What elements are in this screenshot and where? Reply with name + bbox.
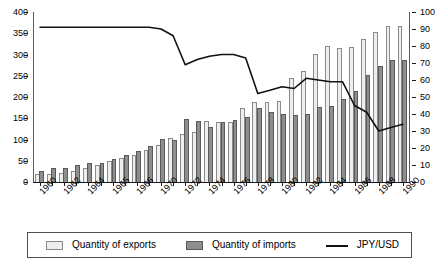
y-axis-right-tick [412,97,416,98]
y-axis-right-tick-label: 10 [420,161,430,170]
y-axis-right: 0102030405060708090100 [412,12,442,182]
legend-item-imports: Quantity of imports [186,240,296,250]
y-axis-right-tick-label: 80 [420,42,430,51]
light-square-swatch-icon [46,241,63,250]
y-axis-right-tick [412,63,416,64]
chart-figure: 050100150200250300350400 010203040506070… [0,0,442,264]
y-axis-right-tick [412,12,416,13]
y-axis-left-tick [24,161,28,162]
y-axis-right-tick-label: 20 [420,144,430,153]
y-axis-right-tick [412,165,416,166]
legend-label-exports: Quantity of exports [72,240,156,250]
y-axis-left-tick [24,97,28,98]
y-axis-right-tick-label: 40 [420,110,430,119]
y-axis-left-tick [24,76,28,77]
plot-area: 050100150200250300350400 010203040506070… [0,0,442,196]
y-axis-left-tick [24,118,28,119]
y-axis-right-tick-label: 60 [420,76,430,85]
y-axis-right-tick-label: 30 [420,127,430,136]
line-swatch-icon [326,241,348,250]
y-axis-right-tick [412,46,416,47]
y-axis-right-tick [412,114,416,115]
y-axis-left-tick [24,33,28,34]
x-axis-labels: 1960196219641965196619701972197419761978… [0,186,442,230]
y-axis-left-tick [24,140,28,141]
y-axis-left-tick [24,182,28,183]
legend-label-jpyusd: JPY/USD [357,240,399,250]
y-axis-left-tick [24,55,28,56]
chart-legend: Quantity of exports Quantity of imports … [27,232,412,258]
y-axis-right-tick [412,80,416,81]
y-axis-right-tick-label: 100 [420,8,435,17]
y-axis-right-tick-label: 70 [420,59,430,68]
legend-label-imports: Quantity of imports [212,240,296,250]
y-axis-right-tick-label: 90 [420,25,430,34]
y-axis-right-tick [412,148,416,149]
jpy-usd-line-series [34,12,409,182]
y-axis-left-tick [24,12,28,13]
y-axis-left: 050100150200250300350400 [0,12,28,182]
y-axis-right-tick [412,29,416,30]
legend-item-jpyusd: JPY/USD [326,240,399,250]
y-axis-right-tick [412,131,416,132]
dark-square-swatch-icon [186,241,203,250]
legend-item-exports: Quantity of exports [46,240,156,250]
y-axis-right-tick-label: 50 [420,93,430,102]
